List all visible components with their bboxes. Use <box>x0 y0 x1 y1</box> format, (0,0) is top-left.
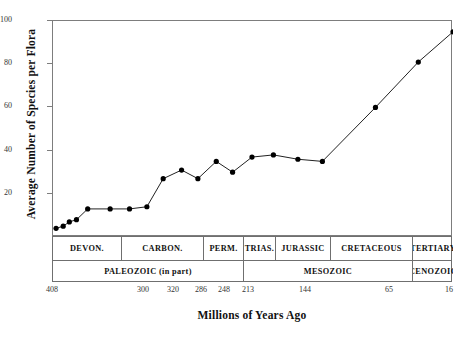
data-point-marker <box>320 159 325 164</box>
y-tick-label: 80 <box>0 59 12 67</box>
geologic-periods-row: DEVON.CARBON.PERM.TRIAS.JURASSICCRETACEO… <box>52 236 452 260</box>
geologic-period-cell: PERM. <box>204 237 244 260</box>
data-point-marker <box>249 154 254 159</box>
data-point-marker <box>53 226 58 231</box>
data-point-marker <box>195 176 200 181</box>
geologic-period-cell: DEVON. <box>53 237 122 260</box>
geologic-period-cell: CARBON. <box>122 237 204 260</box>
data-point-marker <box>144 204 149 209</box>
figure: Average Number of Species per Flora 1008… <box>0 0 468 339</box>
data-point-marker <box>61 224 66 229</box>
data-point-marker <box>74 217 79 222</box>
geologic-period-cell: TRIAS. <box>244 237 276 260</box>
geologic-era-cell: PALEOZOIC (in part) <box>53 261 244 281</box>
data-point-marker <box>161 176 166 181</box>
geologic-period-cell: JURASSIC <box>276 237 331 260</box>
data-point-marker <box>295 157 300 162</box>
y-tick-label: 60 <box>0 102 12 110</box>
x-tick-label: 16 <box>429 285 468 294</box>
x-tick-label: 408 <box>32 285 72 294</box>
x-tick-label: 213 <box>228 285 268 294</box>
y-axis-label: Average Number of Species per Flora <box>25 9 37 239</box>
y-tick-label: 40 <box>0 146 12 154</box>
geologic-period-cell: CRETACEOUS <box>331 237 413 260</box>
geologic-era-cell: CENOZOIC <box>413 261 453 281</box>
data-point-marker <box>271 152 276 157</box>
geologic-era-cell: MESOZOIC <box>244 261 413 281</box>
plot-area <box>52 20 452 236</box>
data-series-line <box>53 21 453 237</box>
x-axis-label: Millions of Years Ago <box>52 309 452 321</box>
data-point-marker <box>373 105 378 110</box>
data-point-marker <box>214 159 219 164</box>
data-point-marker <box>416 59 421 64</box>
y-tick-label: 100 <box>0 16 12 24</box>
data-point-marker <box>85 206 90 211</box>
x-tick-label: 65 <box>369 285 409 294</box>
x-axis-tick-labels: 4083003202862482131446516 <box>0 285 468 297</box>
x-tick-label: 144 <box>285 285 325 294</box>
geologic-eras-row: PALEOZOIC (in part)MESOZOICCENOZOIC <box>52 260 452 282</box>
data-point-marker <box>179 167 184 172</box>
data-point-marker <box>67 219 72 224</box>
data-point-marker <box>230 170 235 175</box>
y-tick-label: 20 <box>0 189 12 197</box>
data-point-marker <box>108 206 113 211</box>
data-point-marker <box>127 206 132 211</box>
series-polyline <box>56 32 453 229</box>
geologic-period-cell: TERTIARY <box>413 237 453 260</box>
